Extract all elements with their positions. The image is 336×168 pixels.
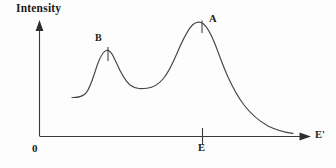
x-axis-label: E' xyxy=(315,130,325,141)
origin-label: 0 xyxy=(32,143,38,154)
figure-canvas: Intensity 0 E E' A B xyxy=(0,0,336,168)
y-axis-arrowhead xyxy=(36,20,44,31)
peak-a-label: A xyxy=(209,14,217,25)
x-axis-arrowhead xyxy=(300,132,312,140)
peak-b-label: B xyxy=(95,33,102,43)
spectrum-plot xyxy=(0,0,336,168)
x-axis-tick-label-e: E xyxy=(198,143,205,154)
y-axis-label: Intensity xyxy=(16,3,61,15)
intensity-curve xyxy=(72,22,293,133)
